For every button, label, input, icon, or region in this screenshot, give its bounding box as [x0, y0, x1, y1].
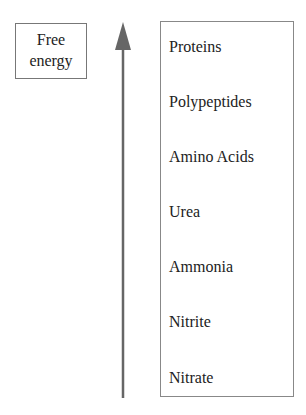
- compound-proteins: Proteins: [169, 38, 221, 56]
- compound-list-box: Proteins Polypeptides Amino Acids Urea A…: [160, 21, 294, 397]
- compound-nitrite: Nitrite: [169, 313, 211, 331]
- compound-ammonia: Ammonia: [169, 258, 233, 276]
- free-energy-label-box: Free energy: [15, 23, 87, 79]
- up-arrow-icon: [112, 20, 134, 400]
- compound-amino-acids: Amino Acids: [169, 148, 254, 166]
- compound-nitrate: Nitrate: [169, 369, 213, 387]
- compound-urea: Urea: [169, 203, 200, 221]
- free-energy-label-line1: Free: [16, 29, 86, 50]
- compound-polypeptides: Polypeptides: [169, 93, 252, 111]
- free-energy-label-line2: energy: [16, 50, 86, 71]
